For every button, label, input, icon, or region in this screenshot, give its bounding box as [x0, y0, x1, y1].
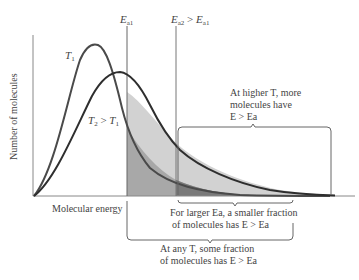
annotation-higher-t: At higher T, more molecules have E > Ea [230, 87, 301, 123]
ea2-label: Ea2 > Ea1 [171, 13, 209, 29]
t1-label: T1 [65, 49, 75, 65]
y-axis-label: Number of molecules [8, 73, 19, 160]
t2-label: T2 > T1 [88, 114, 119, 130]
bracket-larger-ea [178, 200, 293, 206]
annotation-any-t: At any T, some fraction of molecules has… [160, 243, 257, 267]
energy-distribution-diagram [0, 0, 359, 280]
ea1-label: Ea1 [120, 13, 133, 29]
annotation-larger-ea: For larger Ea, a smaller fraction of mol… [170, 207, 298, 231]
x-axis-label: Molecular energy [52, 203, 123, 215]
